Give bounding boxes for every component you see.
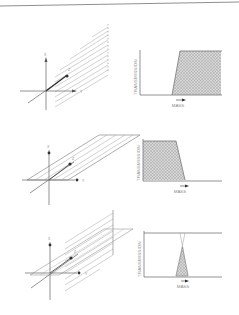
xlabel: MASS [174,189,187,194]
x-axis-dot-icon [48,152,51,155]
panel-1-3d-diagram: X Y Z [20,24,108,110]
x-axis-label: X [48,237,51,241]
ylabel: TRANSMISSION [133,59,138,95]
x-axis-arrow-icon [45,57,48,62]
ion-dot-icon [68,162,71,165]
top-rule [0,2,239,6]
panel-3-3d-diagram: X Y Z [25,210,133,300]
horizontal-plane-hatch [35,135,133,180]
transmission-peak [176,247,188,276]
x-axis-dot-icon [49,244,52,247]
mass-arrow-icon [185,185,189,188]
xlabel: MASS [172,103,185,108]
y-axis-dot-icon [76,179,79,182]
ylabel: TRANSMISSION [137,241,142,277]
x-axis-label: X [47,145,50,149]
ion-vector [46,76,66,91]
y-axis-label: Y [82,179,85,183]
ylabel: TRANSMISSION [136,145,141,181]
xlabel: MASS [177,284,190,289]
horizontal-plane-outline [27,135,140,180]
panel-2-3d-diagram: X Y Z [22,135,140,205]
ion-vector [49,164,70,180]
x-axis-label: X [44,53,47,57]
mass-arrow-icon [182,99,186,102]
ion-dot-icon [65,74,68,77]
transmission-region [143,141,185,180]
figure-canvas: X Y Z TRANSMISSION MASS [0,0,239,315]
vertical-plane-hatch [65,213,113,291]
panel-1-transmission-plot: TRANSMISSION MASS [133,50,222,108]
transmission-region [172,51,221,95]
z-axis-label: Z [72,157,75,161]
panel-3-transmission-plot: TRANSMISSION MASS [137,231,222,289]
panel-3: X Y Z TRANSMISSION MASS [25,210,222,300]
horizontal-plane-outline [30,229,133,275]
ion-dot-icon [69,256,72,259]
z-axis-label: Z [68,68,71,72]
y-axis-label: Y [85,272,88,276]
vertical-plane-hatch [55,27,108,107]
panel-2: X Y Z TRANSMISSION MASS [22,135,222,205]
mass-arrow-icon [185,280,189,283]
panel-1: X Y Z TRANSMISSION MASS [20,24,222,110]
panel-2-transmission-plot: TRANSMISSION MASS [136,139,222,194]
y-axis-dot-icon [78,272,81,275]
